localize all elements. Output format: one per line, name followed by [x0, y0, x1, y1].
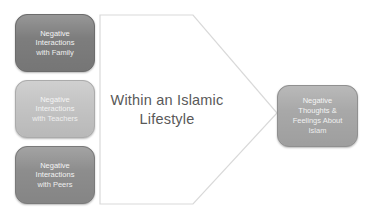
center-label-line: Within an Islamic: [100, 91, 234, 110]
box-line: Feelings About: [293, 116, 343, 126]
box-line: with Teachers: [32, 114, 78, 124]
box-line: with Family: [36, 48, 74, 58]
box-line: Thoughts &: [298, 106, 336, 116]
center-label-line: Lifestyle: [100, 110, 234, 129]
box-negative-interactions-family: Negative Interactions with Family: [15, 14, 95, 72]
box-line: Negative: [40, 29, 70, 39]
diagram-canvas: Negative Interactions with Family Negati…: [0, 0, 368, 220]
box-line: Interactions: [36, 104, 75, 114]
box-line: Interactions: [36, 38, 75, 48]
box-negative-thoughts-feelings-islam: Negative Thoughts & Feelings About Islam: [277, 85, 358, 147]
box-line: Negative: [40, 161, 70, 171]
box-line: Islam: [309, 126, 327, 136]
box-negative-interactions-peers: Negative Interactions with Peers: [15, 146, 95, 204]
box-line: Negative: [40, 95, 70, 105]
center-label: Within an Islamic Lifestyle: [100, 91, 234, 129]
box-line: with Peers: [37, 180, 72, 190]
box-negative-interactions-teachers: Negative Interactions with Teachers: [15, 80, 95, 138]
box-line: Interactions: [36, 170, 75, 180]
box-line: Negative: [303, 96, 333, 106]
